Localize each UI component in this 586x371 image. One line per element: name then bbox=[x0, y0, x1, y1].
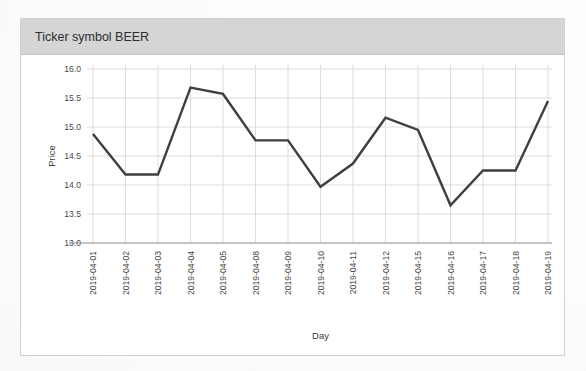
y-axis-label: Price bbox=[46, 145, 57, 167]
y-axis-tick-label: 14.5 bbox=[64, 151, 81, 161]
x-axis-tick-label: 2019-04-15 bbox=[413, 251, 423, 295]
x-axis-label: Day bbox=[312, 330, 329, 341]
chart-card: Ticker symbol BEER 13.013.514.014.515.01… bbox=[20, 18, 565, 356]
chart-area: 13.013.514.014.515.015.516.0 2019-04-012… bbox=[21, 55, 564, 355]
x-axis-tick-label: 2019-04-09 bbox=[283, 251, 293, 295]
x-axis-tick-label: 2019-04-03 bbox=[153, 251, 163, 295]
x-axis-tick-label: 2019-04-04 bbox=[186, 251, 196, 295]
x-axis-tick-label: 2019-04-11 bbox=[348, 251, 358, 295]
y-axis-tick-label: 13.5 bbox=[64, 209, 81, 219]
x-axis-tick-label: 2019-04-02 bbox=[121, 251, 131, 295]
x-axis-tick-label: 2019-04-01 bbox=[88, 251, 98, 295]
x-axis-tick-label: 2019-04-10 bbox=[316, 251, 326, 295]
x-axis-tick-label: 2019-04-19 bbox=[543, 251, 553, 295]
y-axis-tick-label: 15.5 bbox=[64, 93, 81, 103]
card-header: Ticker symbol BEER bbox=[21, 19, 564, 55]
grid-lines bbox=[87, 65, 552, 243]
x-axis-tick-label: 2019-04-16 bbox=[446, 251, 456, 295]
y-axis-tick-label: 16.0 bbox=[64, 64, 81, 74]
x-axis-tick-label: 2019-04-12 bbox=[381, 251, 391, 295]
y-axis-tick-label: 14.0 bbox=[64, 180, 81, 190]
page-title: Ticker symbol BEER bbox=[35, 30, 149, 44]
x-axis-ticks: 2019-04-012019-04-022019-04-032019-04-04… bbox=[88, 251, 553, 295]
x-axis-tick-label: 2019-04-05 bbox=[218, 251, 228, 295]
y-axis-tick-label: 15.0 bbox=[64, 122, 81, 132]
x-axis-tick-label: 2019-04-08 bbox=[251, 251, 261, 295]
price-line-chart: 13.013.514.014.515.015.516.0 2019-04-012… bbox=[21, 55, 566, 355]
y-axis-ticks: 13.013.514.014.515.015.516.0 bbox=[64, 64, 81, 248]
x-axis-tick-label: 2019-04-18 bbox=[511, 251, 521, 295]
x-axis-tick-label: 2019-04-17 bbox=[478, 251, 488, 295]
